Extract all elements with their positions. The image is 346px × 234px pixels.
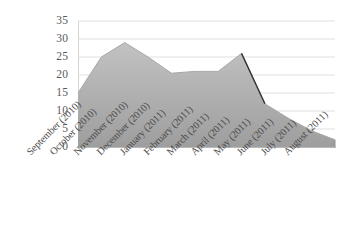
x-axis: September (2010)October (2010)November (… [0,0,346,234]
area-chart: 05101520253035 September (2010)October (… [0,0,346,234]
